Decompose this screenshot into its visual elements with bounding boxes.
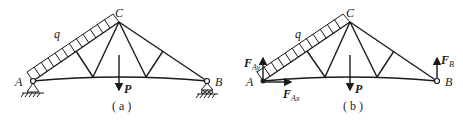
label-a: A (245, 75, 254, 89)
label-c: C (346, 6, 355, 20)
label-q: q (54, 27, 60, 41)
label-b: B (445, 75, 453, 89)
figure-a: A B C q P ( a ) (14, 6, 223, 113)
node-b (435, 79, 440, 84)
label-fay: FAy (243, 56, 260, 72)
caption-a: ( a ) (112, 99, 131, 113)
figure-b: A B C q P FAy FAx FB ( b ) (243, 6, 454, 113)
label-p: P (355, 82, 363, 96)
label-a: A (14, 75, 23, 89)
distributed-load-q (257, 14, 350, 81)
label-p: P (124, 82, 132, 96)
label-q: q (295, 27, 301, 41)
label-fb: FB (440, 53, 454, 69)
label-fax: FAx (282, 87, 300, 103)
label-c: C (115, 6, 124, 20)
truss-diagrams: A B C q P ( a ) (0, 0, 463, 126)
distributed-load-q (27, 14, 119, 81)
node-a (261, 79, 266, 84)
caption-b: ( b ) (343, 99, 363, 113)
pin-support-a (21, 79, 44, 98)
label-b: B (215, 75, 223, 89)
